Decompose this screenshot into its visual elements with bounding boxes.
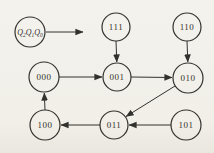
state-label-000: 000 <box>37 72 52 82</box>
register-label-group: Q2Q1Q0 <box>15 17 83 47</box>
state-label-101: 101 <box>179 120 194 130</box>
state-label-100: 100 <box>38 120 53 130</box>
state-label-110: 110 <box>180 22 195 32</box>
transition-arrow-100-to-000 <box>44 93 45 110</box>
register-label-text: Q2Q1Q0 <box>17 28 43 38</box>
state-diagram-canvas: 111110000001010100011101 Q2Q1Q0 <box>0 0 214 153</box>
state-label-010: 010 <box>181 73 196 83</box>
transition-arrow-110-to-010 <box>187 41 188 62</box>
transition-arrow-111-to-001 <box>116 41 117 62</box>
state-label-001: 001 <box>110 72 125 82</box>
transition-arrow-010-to-011 <box>126 86 175 117</box>
state-label-011: 011 <box>107 120 122 130</box>
transition-arrow-001-to-010 <box>131 77 172 78</box>
state-diagram-figure: 111110000001010100011101 Q2Q1Q0 <box>0 0 214 153</box>
state-label-111: 111 <box>109 22 123 32</box>
